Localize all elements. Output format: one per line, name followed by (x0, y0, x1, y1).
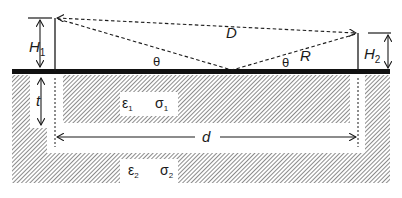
diagram-canvas: H1 H2 D R θ θ t d ε1 σ1 ε2 σ2 (0, 0, 402, 198)
incidence-angle-label: θ (153, 54, 160, 69)
reflected-ray (58, 19, 356, 70)
ground-surface-line (12, 69, 390, 74)
reflection-angle-label: θ (282, 55, 289, 70)
direct-ray (57, 18, 356, 33)
direct-ray-label: D (226, 24, 237, 41)
h1-label: H1 (29, 38, 46, 58)
reflected-ray-label: R (300, 47, 311, 64)
upper-layer-hatch (63, 75, 350, 123)
distance-label: d (202, 128, 211, 145)
ground-layers (12, 75, 390, 183)
h2-label: H2 (364, 45, 381, 65)
